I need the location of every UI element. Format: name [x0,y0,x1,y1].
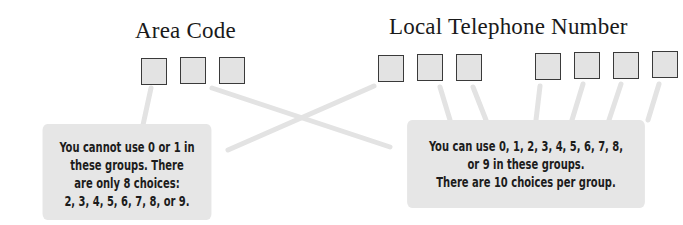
connector-area1-left [143,88,151,125]
area-code-digit-1 [141,58,167,85]
local-prefix-digit-2 [417,54,443,81]
area-code-callout: You cannot use 0 or 1 in these groups. T… [43,124,212,220]
local-number-label: Local Telephone Number [389,14,628,40]
local-prefix-digit-1 [378,55,404,82]
local-line-digit-4 [652,51,678,78]
callout-right-line-1: You can use 0, 1, 2, 3, 4, 5, 6, 7, 8, [407,137,645,155]
local-line-digit-2 [574,52,600,79]
callout-right-line-2: or 9 in these groups. [407,155,645,173]
area-code-label: Area Code [135,18,236,44]
callout-left-line-4: 2, 3, 4, 5, 6, 7, 8, or 9. [43,192,212,210]
local-number-callout: You can use 0, 1, 2, 3, 4, 5, 6, 7, 8, o… [407,120,645,208]
callout-left-line-3: are only 8 choices: [43,174,212,192]
area-code-digit-2 [180,57,206,84]
local-prefix-digit-3 [456,54,482,81]
local-line-digit-3 [613,52,639,79]
callout-left-line-2: these groups. There [43,156,212,174]
area-code-digit-3 [219,57,245,84]
connector-local1-left [228,86,374,150]
local-line-digit-1 [535,53,561,80]
callout-left-line-1: You cannot use 0 or 1 in [43,138,212,156]
callout-right-line-3: There are 10 choices per group. [407,173,645,191]
